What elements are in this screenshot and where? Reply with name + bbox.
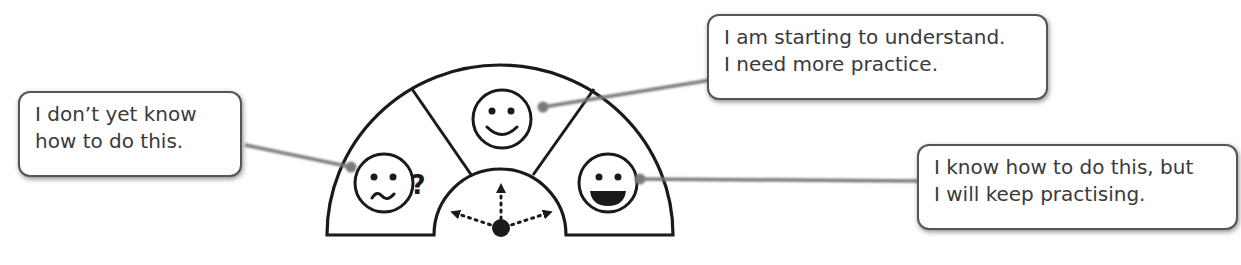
callout-know-how-line2: I will keep practising. (934, 181, 1222, 208)
connector-dot-starting (538, 102, 549, 113)
callout-know-how: I know how to do this, but I will keep p… (917, 144, 1238, 230)
pointer-right (505, 213, 548, 227)
callout-starting: I am starting to understand. I need more… (707, 14, 1048, 100)
dial-hub (492, 219, 510, 237)
connector-dot-not-yet (346, 162, 357, 173)
callout-not-yet: I don’t yet know how to do this. (18, 91, 242, 177)
callout-know-how-line1: I know how to do this, but (934, 154, 1222, 181)
grinning-face-icon (579, 154, 637, 212)
callout-not-yet-line2: how to do this. (35, 128, 226, 155)
question-mark-icon: ? (410, 170, 425, 200)
connector-dot-know-how (635, 174, 646, 185)
callout-not-yet-line1: I don’t yet know (35, 101, 226, 128)
smiling-face-icon (473, 90, 531, 148)
dial (455, 188, 548, 237)
connector-know-how (639, 179, 918, 181)
connector-not-yet (245, 145, 351, 167)
pointer-left (455, 213, 497, 227)
callout-starting-line1: I am starting to understand. (724, 24, 1032, 51)
confused-face-icon (355, 154, 413, 212)
callout-starting-line2: I need more practice. (724, 51, 1032, 78)
